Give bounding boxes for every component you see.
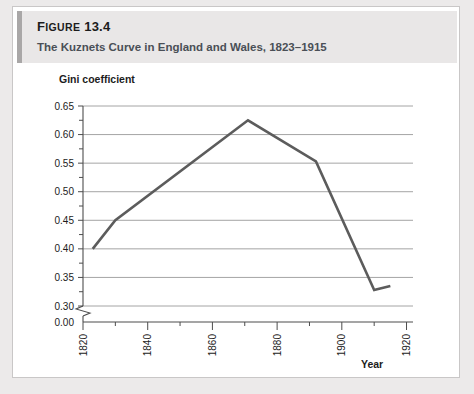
kuznets-curve-chart: Gini coefficient 0.650.600.550.500.450.4… — [13, 63, 461, 379]
figure-subtitle: The Kuznets Curve in England and Wales, … — [37, 39, 327, 56]
header-accent-bar — [17, 11, 22, 63]
chart-plot-area: Gini coefficient 0.650.600.550.500.450.4… — [13, 63, 461, 379]
x-axis-ticks-group: 182018401860188019001920 — [78, 322, 413, 356]
y-tick-label: 0.55 — [55, 158, 75, 169]
y-axis-break-symbol — [76, 306, 90, 316]
y-tick-label: 0.65 — [55, 101, 75, 112]
figure-number: FIGURE 13.4 — [37, 18, 327, 36]
y-tick-label: 0.50 — [55, 186, 75, 197]
x-tick-label: 1900 — [336, 334, 347, 357]
x-tick-label: 1880 — [272, 334, 283, 357]
y-axis-title: Gini coefficient — [59, 73, 135, 85]
series-line-gini — [93, 120, 391, 290]
figure-header: FIGURE 13.4 The Kuznets Curve in England… — [17, 11, 457, 63]
y-tick-label: 0.30 — [55, 301, 75, 312]
figure-word-rest: IGURE — [45, 21, 80, 33]
y-tick-label: 0.60 — [55, 129, 75, 140]
y-tick-label-zero: 0.00 — [55, 317, 75, 328]
y-tick-label: 0.40 — [55, 243, 75, 254]
x-axis-title: Year — [361, 358, 383, 370]
y-tick-label: 0.45 — [55, 215, 75, 226]
figure-header-text: FIGURE 13.4 The Kuznets Curve in England… — [37, 18, 327, 56]
y-tick-label: 0.35 — [55, 272, 75, 283]
x-tick-label: 1860 — [207, 334, 218, 357]
figure-word-cap: F — [37, 19, 45, 34]
x-tick-label: 1820 — [78, 334, 89, 357]
y-axis-ticks-group: 0.650.600.550.500.450.400.350.300.00 — [55, 101, 83, 328]
x-tick-label: 1920 — [401, 334, 412, 357]
x-tick-label: 1840 — [142, 334, 153, 357]
figure-number-value: 13.4 — [84, 19, 110, 34]
figure-card: FIGURE 13.4 The Kuznets Curve in England… — [12, 6, 460, 378]
